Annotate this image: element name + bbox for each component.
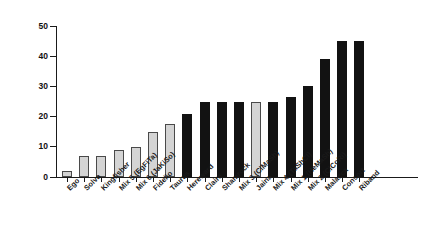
y-tick-mark [50,56,57,57]
y-axis-line [56,26,57,178]
y-tick-label: 10 [26,142,48,150]
y-tick-label: 30 [26,82,48,90]
bar [62,171,72,177]
bar [182,114,192,177]
y-tick-mark [50,177,57,178]
y-tick-label: 50 [26,22,48,30]
y-tick-label: 40 [26,52,48,60]
bar [217,102,227,178]
y-tick-label: 0 [26,173,48,181]
bar [354,41,364,177]
y-tick-mark [50,86,57,87]
y-tick-mark [50,26,57,27]
y-tick-mark [50,146,57,147]
y-tick-mark [50,116,57,117]
weed-cover-bar-chart: Weed Cover (%) 01020304050 EgoSolvaKingf… [0,0,428,251]
y-tick-label: 20 [26,112,48,120]
bar [79,156,89,177]
